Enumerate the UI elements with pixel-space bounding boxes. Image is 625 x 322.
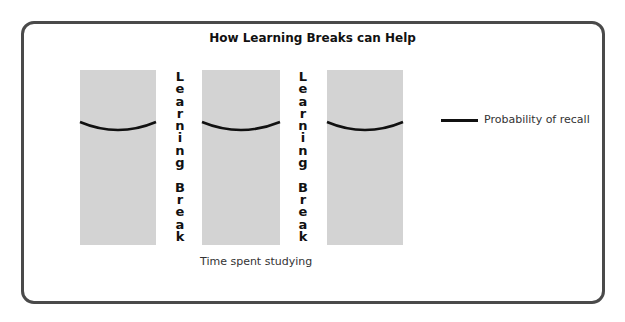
learning-break-label-2: L e a r n i n g B r e a k [293,71,313,243]
recall-curve-1 [80,122,156,130]
letter: k [170,231,190,243]
legend-label: Probability of recall [484,113,590,126]
recall-curve-3 [327,122,403,130]
recall-curve-2 [202,122,280,130]
letter: k [293,231,313,243]
legend-line-icon [441,119,478,122]
learning-break-label-1: L e a r n i n g B r e a k [170,71,190,243]
x-axis-label: Time spent studying [200,255,312,268]
